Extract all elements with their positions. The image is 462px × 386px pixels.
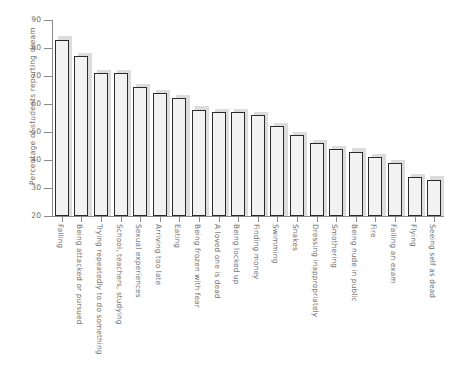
- y-tick-50: 50: [44, 132, 52, 133]
- x-tick: [258, 217, 259, 222]
- x-category-label: Eating: [173, 224, 182, 248]
- x-tick: [238, 217, 239, 222]
- x-category-label: Fire: [369, 224, 378, 238]
- y-tick-label: 80: [31, 43, 41, 52]
- y-tick-label: 50: [31, 127, 41, 136]
- x-category-label: Seeing self as dead: [428, 224, 437, 298]
- x-category-label: School, teachers, studying: [115, 224, 124, 325]
- x-tick: [62, 217, 63, 222]
- x-category-label: Snakes: [291, 224, 300, 251]
- x-category-label: Being attacked or pursued: [75, 224, 84, 325]
- x-tick: [375, 217, 376, 222]
- x-category-label: Arriving too late: [154, 224, 163, 285]
- x-category-label: Being frozen with fear: [193, 224, 202, 308]
- x-category-label: A loved one is dead: [213, 224, 222, 299]
- x-tick: [219, 217, 220, 222]
- y-tick-80: 80: [44, 48, 52, 49]
- x-tick: [415, 217, 416, 222]
- x-tick: [81, 217, 82, 222]
- x-category-label: Failing an exam: [389, 224, 398, 284]
- y-tick-label: 30: [31, 183, 41, 192]
- plot-area: [52, 20, 444, 216]
- x-tick: [395, 217, 396, 222]
- y-tick-label: 60: [31, 99, 41, 108]
- x-tick: [277, 217, 278, 222]
- x-tick: [199, 217, 200, 222]
- x-category-label: Swimming: [271, 224, 280, 263]
- x-category-label: Trying repeatedly to do something: [95, 224, 104, 354]
- x-tick: [336, 217, 337, 222]
- x-tick: [121, 217, 122, 222]
- x-category-label: Smothering: [330, 224, 339, 268]
- x-tick: [160, 217, 161, 222]
- x-category-label: Falling: [56, 224, 65, 248]
- x-tick: [434, 217, 435, 222]
- x-category-label: Being locked up: [232, 224, 241, 285]
- x-tick: [317, 217, 318, 222]
- y-tick-40: 40: [44, 160, 52, 161]
- x-category-label: Being nude in public: [350, 224, 359, 302]
- y-tick-70: 70: [44, 76, 52, 77]
- x-category-label: Sexual experiences: [134, 224, 143, 298]
- x-category-label: Finding money: [252, 224, 261, 280]
- y-tick-90: 90: [44, 20, 52, 21]
- x-category-label: Flying: [409, 224, 418, 247]
- x-tick: [101, 217, 102, 222]
- x-tick: [140, 217, 141, 222]
- x-category-label: Dressing inappropriately: [311, 224, 320, 317]
- y-tick-label: 40: [31, 155, 41, 164]
- y-tick-30: 30: [44, 188, 52, 189]
- y-tick-label: 90: [31, 15, 41, 24]
- x-axis-line: [52, 216, 444, 217]
- y-tick-60: 60: [44, 104, 52, 105]
- x-tick: [356, 217, 357, 222]
- y-tick-label: 70: [31, 71, 41, 80]
- y-tick-20: 20: [44, 216, 52, 217]
- x-tick: [297, 217, 298, 222]
- x-tick: [179, 217, 180, 222]
- y-tick-label: 20: [31, 211, 41, 220]
- bar-chart-figure: Percentage of students reporting dream 2…: [0, 0, 462, 386]
